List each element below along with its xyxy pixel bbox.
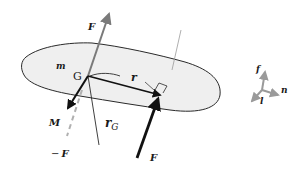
label-negative-force: −F: [51, 148, 69, 159]
label-axis-l: l: [260, 96, 264, 106]
label-moment: M: [48, 117, 61, 128]
rigid-body-shape: [22, 43, 221, 111]
label-force-bottom: F: [149, 152, 158, 163]
label-rG: rG: [105, 116, 119, 132]
label-mass: m: [56, 61, 66, 71]
label-axis-f: f: [255, 64, 262, 74]
fnl-axes-icon: f n l: [252, 64, 288, 106]
label-force-top: F: [87, 21, 96, 32]
label-center-G: G: [73, 70, 82, 83]
label-axis-n: n: [281, 85, 288, 95]
applied-force-arrow: [137, 99, 158, 158]
rigid-body-force-diagram: F m G r M rG −F F f n l: [0, 0, 303, 170]
